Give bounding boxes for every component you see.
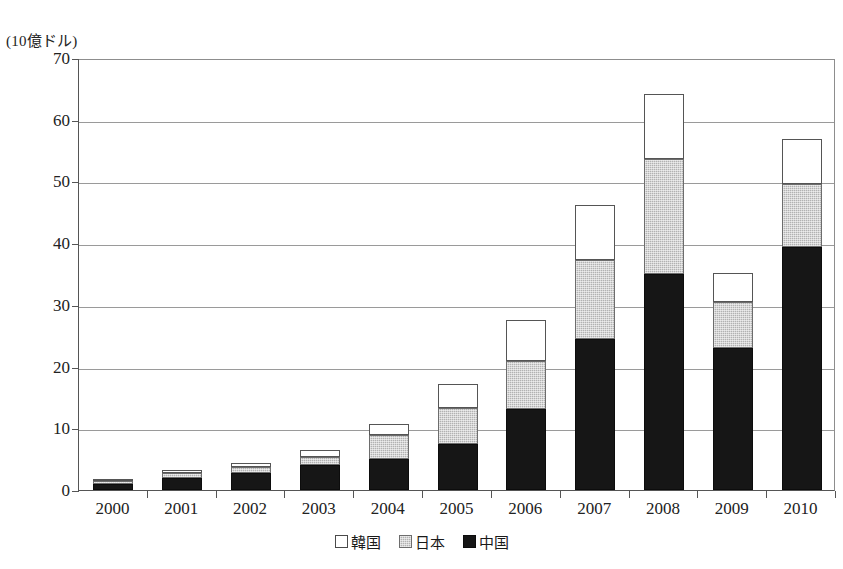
legend-label: 日本 xyxy=(415,531,445,552)
bar-segment-kr[interactable] xyxy=(644,94,684,158)
bar-segment-cn[interactable] xyxy=(438,444,478,490)
x-axis-tick-label: 2008 xyxy=(628,500,698,517)
bar-segment-jp[interactable] xyxy=(93,481,133,484)
x-axis-tick-label: 2000 xyxy=(77,500,147,517)
bar-stack[interactable] xyxy=(644,58,684,490)
y-axis-tick-label: 30 xyxy=(14,297,70,314)
bar-segment-jp[interactable] xyxy=(162,473,202,478)
y-axis-tick-mark xyxy=(72,491,79,492)
bar-segment-kr[interactable] xyxy=(575,205,615,260)
x-axis-tick-label: 2002 xyxy=(215,500,285,517)
bar-segment-cn[interactable] xyxy=(713,348,753,490)
bar-segment-cn[interactable] xyxy=(644,274,684,490)
x-axis-tick-mark xyxy=(560,491,561,498)
bar-segment-jp[interactable] xyxy=(575,260,615,339)
plot-area xyxy=(78,59,835,491)
bar-stack[interactable] xyxy=(162,58,202,490)
bar-segment-cn[interactable] xyxy=(506,409,546,490)
x-axis-tick-label: 2001 xyxy=(146,500,216,517)
bar-segment-cn[interactable] xyxy=(782,247,822,490)
x-axis-tick-mark xyxy=(216,491,217,498)
x-axis-tick-mark xyxy=(147,491,148,498)
bar-segment-cn[interactable] xyxy=(231,473,271,490)
bar-segment-kr[interactable] xyxy=(506,320,546,361)
bar-stack[interactable] xyxy=(93,58,133,490)
legend-label: 韓国 xyxy=(351,531,381,552)
x-axis-tick-mark xyxy=(697,491,698,498)
x-axis-tick-mark xyxy=(766,491,767,498)
x-axis-tick-label: 2006 xyxy=(490,500,560,517)
bar-stack[interactable] xyxy=(782,58,822,490)
bar-stack[interactable] xyxy=(575,58,615,490)
x-axis-tick-label: 2010 xyxy=(766,500,836,517)
x-axis-tick-label: 2009 xyxy=(697,500,767,517)
bar-segment-jp[interactable] xyxy=(300,457,340,466)
y-axis-tick-label: 50 xyxy=(14,173,70,190)
bar-segment-kr[interactable] xyxy=(162,470,202,473)
x-axis-tick-mark xyxy=(491,491,492,498)
bar-segment-jp[interactable] xyxy=(369,435,409,459)
bar-segment-jp[interactable] xyxy=(231,467,271,473)
bar-segment-jp[interactable] xyxy=(713,302,753,348)
bar-segment-jp[interactable] xyxy=(782,184,822,248)
legend-swatch-icon xyxy=(399,535,412,548)
legend-item-jp[interactable]: 日本 xyxy=(399,531,445,552)
y-axis-tick-label: 10 xyxy=(14,420,70,437)
chart-page: { "axis_unit_caption": "(10億ドル)", "chart… xyxy=(0,0,843,569)
y-axis-unit-caption: (10億ドル) xyxy=(6,29,77,50)
legend-swatch-icon xyxy=(463,535,476,548)
bar-segment-cn[interactable] xyxy=(369,459,409,490)
y-axis-tick-label: 70 xyxy=(14,50,70,67)
bar-segment-kr[interactable] xyxy=(93,479,133,481)
bar-segment-kr[interactable] xyxy=(713,273,753,302)
bar-stack[interactable] xyxy=(506,58,546,490)
bar-segment-kr[interactable] xyxy=(231,463,271,467)
bar-stack[interactable] xyxy=(231,58,271,490)
bar-segment-jp[interactable] xyxy=(644,159,684,274)
bar-segment-kr[interactable] xyxy=(369,424,409,435)
bar-stack[interactable] xyxy=(369,58,409,490)
y-axis-tick-label: 60 xyxy=(14,112,70,129)
x-axis-tick-label: 2007 xyxy=(559,500,629,517)
x-axis-tick-label: 2004 xyxy=(353,500,423,517)
x-axis-tick-label: 2003 xyxy=(284,500,354,517)
legend-label: 中国 xyxy=(479,531,509,552)
x-axis-tick-mark xyxy=(835,491,836,498)
bar-segment-jp[interactable] xyxy=(506,361,546,409)
bar-segment-cn[interactable] xyxy=(300,465,340,490)
bar-stack[interactable] xyxy=(713,58,753,490)
chart-legend: 韓国日本中国 xyxy=(0,531,843,552)
bar-segment-kr[interactable] xyxy=(300,450,340,457)
bar-stack[interactable] xyxy=(300,58,340,490)
legend-item-cn[interactable]: 中国 xyxy=(463,531,509,552)
bar-segment-kr[interactable] xyxy=(782,139,822,183)
x-axis-tick-mark xyxy=(629,491,630,498)
bar-segment-kr[interactable] xyxy=(438,384,478,408)
y-axis-tick-label: 0 xyxy=(14,482,70,499)
x-axis-tick-mark xyxy=(353,491,354,498)
bar-segment-cn[interactable] xyxy=(575,339,615,490)
bar-stack[interactable] xyxy=(438,58,478,490)
x-axis-tick-label: 2005 xyxy=(422,500,492,517)
y-axis-tick-label: 40 xyxy=(14,235,70,252)
x-axis-tick-mark xyxy=(284,491,285,498)
bar-segment-jp[interactable] xyxy=(438,408,478,444)
bar-segment-cn[interactable] xyxy=(93,484,133,490)
x-axis-tick-mark xyxy=(422,491,423,498)
legend-swatch-icon xyxy=(335,535,348,548)
y-axis-tick-label: 20 xyxy=(14,359,70,376)
bar-segment-cn[interactable] xyxy=(162,478,202,490)
legend-item-kr[interactable]: 韓国 xyxy=(335,531,381,552)
